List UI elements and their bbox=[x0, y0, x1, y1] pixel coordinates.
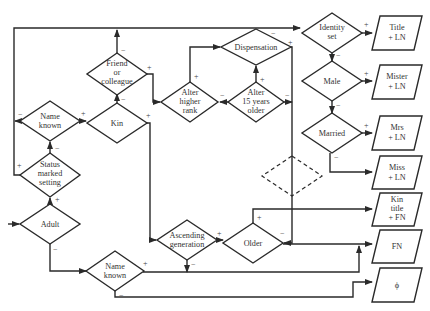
svg-text:−: − bbox=[191, 260, 196, 269]
svg-text:−: − bbox=[271, 29, 276, 38]
svg-text:+: + bbox=[364, 20, 369, 29]
svg-text:Identity: Identity bbox=[319, 23, 345, 32]
svg-text:+: + bbox=[364, 121, 369, 130]
edge-namekn-bottom-minus bbox=[115, 282, 372, 297]
decision-friend-or-colleague: Friend or colleague bbox=[87, 53, 147, 95]
svg-text:older: older bbox=[248, 106, 265, 115]
output-kin-title-fn: Kin title + FN bbox=[372, 193, 422, 226]
output-miss-ln: Miss + LN bbox=[372, 156, 422, 189]
svg-text:Name: Name bbox=[40, 112, 60, 121]
svg-text:−: − bbox=[285, 91, 290, 100]
svg-text:Alter: Alter bbox=[248, 88, 265, 97]
svg-text:+: + bbox=[288, 38, 293, 47]
svg-text:−: − bbox=[280, 229, 285, 238]
svg-text:−: − bbox=[336, 51, 341, 60]
svg-text:generation: generation bbox=[170, 240, 205, 249]
output-mister-ln: Mister + LN bbox=[372, 65, 422, 99]
output-phi: ϕ bbox=[372, 268, 422, 302]
sign-labels: + − − + − + − + − + + − + − − + + − + − … bbox=[17, 20, 369, 300]
svg-text:+: + bbox=[194, 72, 199, 81]
decision-dispensation: Dispensation bbox=[221, 29, 291, 65]
svg-text:+ LN: + LN bbox=[388, 33, 406, 42]
svg-text:or: or bbox=[114, 68, 121, 77]
decision-name-known-bottom: Name known bbox=[86, 251, 144, 291]
svg-text:Friend: Friend bbox=[106, 59, 127, 68]
svg-text:Mister: Mister bbox=[386, 72, 408, 81]
output-fn: FN bbox=[372, 230, 422, 263]
svg-text:+: + bbox=[217, 229, 222, 238]
svg-text:Miss: Miss bbox=[389, 163, 405, 172]
edge-disp-plus bbox=[284, 47, 292, 243]
svg-text:Male: Male bbox=[324, 77, 341, 86]
svg-text:+: + bbox=[147, 63, 152, 72]
svg-text:−: − bbox=[53, 245, 58, 254]
decision-nodes: Adult Status marked setting Name known K… bbox=[20, 13, 362, 291]
address-flowchart: Adult Status marked setting Name known K… bbox=[0, 0, 430, 311]
svg-text:Older: Older bbox=[244, 239, 263, 248]
output-nodes: Title + LN Mister + LN Mrs + LN Miss + L… bbox=[372, 16, 422, 302]
edge-older-plus bbox=[253, 209, 372, 223]
svg-text:Married: Married bbox=[319, 129, 345, 138]
edge-friend-plus bbox=[147, 74, 160, 102]
edge-kin-plus bbox=[147, 123, 156, 240]
svg-text:title: title bbox=[391, 204, 404, 213]
svg-text:−: − bbox=[220, 91, 225, 100]
svg-text:+: + bbox=[143, 259, 148, 268]
svg-text:Dispensation: Dispensation bbox=[235, 43, 278, 52]
svg-text:15 years: 15 years bbox=[242, 97, 270, 106]
svg-text:known: known bbox=[39, 121, 61, 130]
svg-text:Kin: Kin bbox=[111, 119, 123, 128]
svg-text:rank: rank bbox=[183, 106, 198, 115]
svg-text:FN: FN bbox=[392, 242, 403, 251]
svg-text:−: − bbox=[18, 110, 23, 119]
svg-text:Alter: Alter bbox=[182, 88, 199, 97]
svg-text:higher: higher bbox=[180, 97, 201, 106]
decision-alter-higher-rank: Alter higher rank bbox=[161, 82, 218, 122]
svg-text:+ LN: + LN bbox=[388, 173, 406, 182]
svg-text:+: + bbox=[364, 69, 369, 78]
decision-ascending-generation: Ascending generation bbox=[157, 220, 217, 260]
svg-text:−: − bbox=[334, 153, 339, 162]
decision-name-known-top: Name known bbox=[20, 101, 80, 141]
svg-text:+: + bbox=[55, 195, 60, 204]
svg-text:Kin: Kin bbox=[391, 195, 403, 204]
svg-text:Adult: Adult bbox=[41, 220, 60, 229]
svg-text:Status: Status bbox=[40, 160, 60, 169]
svg-text:Title: Title bbox=[389, 23, 405, 32]
svg-text:+: + bbox=[146, 111, 151, 120]
svg-text:colleague: colleague bbox=[101, 77, 133, 86]
svg-text:setting: setting bbox=[39, 178, 61, 187]
svg-text:marked: marked bbox=[38, 169, 63, 178]
output-mrs-ln: Mrs + LN bbox=[372, 116, 422, 150]
svg-text:+: + bbox=[81, 109, 86, 118]
svg-text:+: + bbox=[17, 161, 22, 170]
svg-text:set: set bbox=[327, 32, 337, 41]
svg-text:+ FN: + FN bbox=[388, 213, 405, 222]
svg-text:−: − bbox=[121, 95, 126, 104]
decision-kin: Kin bbox=[87, 103, 147, 143]
svg-text:+ LN: + LN bbox=[388, 82, 406, 91]
svg-text:Ascending: Ascending bbox=[169, 231, 204, 240]
svg-text:−: − bbox=[55, 144, 60, 153]
svg-text:ϕ: ϕ bbox=[395, 281, 400, 290]
decision-status-marked-setting: Status marked setting bbox=[20, 153, 80, 197]
decision-alter-15-years-older: Alter 15 years older bbox=[228, 82, 284, 122]
decision-married: Married bbox=[302, 113, 362, 153]
decision-male: Male bbox=[302, 61, 362, 101]
svg-text:+: + bbox=[257, 213, 262, 222]
svg-text:Name: Name bbox=[105, 262, 125, 271]
decision-identity-set: Identity set bbox=[302, 13, 362, 53]
svg-text:known: known bbox=[104, 271, 126, 280]
svg-text:+ LN: + LN bbox=[388, 133, 406, 142]
output-title-ln: Title + LN bbox=[372, 16, 422, 50]
decision-adult: Adult bbox=[20, 204, 80, 244]
svg-text:Mrs: Mrs bbox=[390, 123, 403, 132]
svg-text:−: − bbox=[121, 46, 126, 55]
svg-text:−: − bbox=[336, 101, 341, 110]
svg-text:−: − bbox=[119, 291, 124, 300]
svg-text:+: + bbox=[260, 75, 265, 84]
decision-older: Older bbox=[223, 223, 283, 263]
